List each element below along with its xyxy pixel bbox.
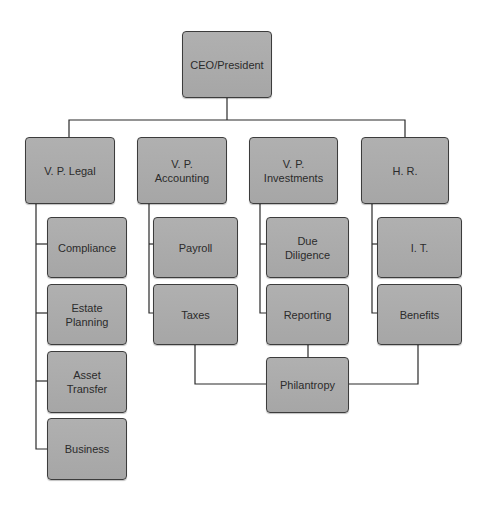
node-label: V. P. Legal — [44, 164, 95, 178]
node-label: Benefits — [400, 308, 440, 322]
node-label: V. P. Investments — [264, 157, 323, 185]
node-taxes[interactable]: Taxes — [153, 284, 238, 345]
node-label: CEO/President — [190, 58, 263, 72]
node-label: Reporting — [284, 308, 332, 322]
node-label: Payroll — [179, 241, 213, 255]
node-ceo-president[interactable]: CEO/President — [182, 31, 272, 98]
node-label: V. P. Accounting — [155, 157, 209, 185]
node-payroll[interactable]: Payroll — [153, 217, 238, 278]
node-label: Due Diligence — [285, 234, 330, 262]
node-asset-transfer[interactable]: Asset Transfer — [47, 351, 127, 413]
node-label: Business — [65, 442, 110, 456]
node-compliance[interactable]: Compliance — [47, 217, 127, 278]
org-chart: CEO/President V. P. Legal V. P. Accounti… — [0, 0, 483, 505]
node-estate-planning[interactable]: Estate Planning — [47, 284, 127, 345]
node-label: H. R. — [392, 164, 417, 178]
node-reporting[interactable]: Reporting — [266, 284, 349, 345]
node-label: I. T. — [411, 241, 429, 255]
node-business[interactable]: Business — [47, 418, 127, 480]
node-label: Taxes — [181, 308, 210, 322]
node-benefits[interactable]: Benefits — [377, 284, 462, 345]
node-vp-legal[interactable]: V. P. Legal — [25, 137, 115, 204]
node-due-diligence[interactable]: Due Diligence — [266, 217, 349, 278]
node-label: Compliance — [58, 241, 116, 255]
node-vp-investments[interactable]: V. P. Investments — [249, 137, 338, 204]
node-it[interactable]: I. T. — [377, 217, 462, 278]
node-label: Philantropy — [280, 378, 335, 392]
node-label: Estate Planning — [66, 301, 109, 329]
node-hr[interactable]: H. R. — [361, 137, 449, 204]
node-label: Asset Transfer — [67, 368, 108, 396]
node-vp-accounting[interactable]: V. P. Accounting — [137, 137, 227, 204]
node-philanthropy[interactable]: Philantropy — [266, 357, 349, 413]
